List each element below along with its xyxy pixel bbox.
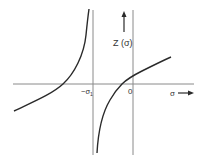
pole-label: −σ1: [81, 87, 93, 97]
curve-right-branch: [97, 57, 171, 153]
sigma-axis-label: σ: [170, 89, 175, 98]
origin-label: 0: [128, 87, 133, 96]
z-arrow-icon: [122, 11, 127, 32]
pole-label-subscript: 1: [90, 91, 93, 97]
sigma-arrow-icon: [178, 91, 194, 96]
z-axis-label: Z (σ): [113, 38, 133, 48]
impedance-plot: Z (σ) −σ1 0 σ: [0, 0, 208, 158]
pole-label-main: −σ: [81, 87, 90, 96]
curve-left-branch: [14, 9, 89, 111]
